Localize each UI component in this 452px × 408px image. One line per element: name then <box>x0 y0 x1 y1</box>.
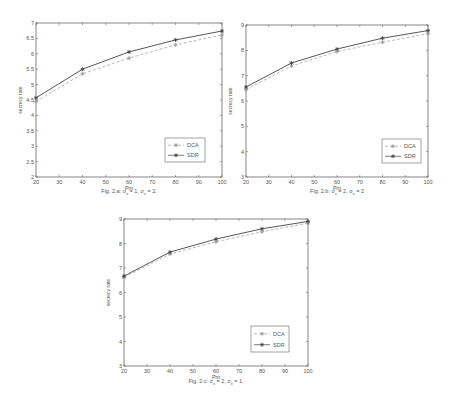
y-tick-label: 5 <box>241 123 244 129</box>
star-marker-icon <box>34 96 38 100</box>
y-tick-label: 6.5 <box>26 35 34 41</box>
y-tick-label: 6 <box>119 290 122 296</box>
legend-marker-icon <box>391 144 395 148</box>
x-tick-label: 100 <box>423 179 432 185</box>
y-tick-label: 3.5 <box>26 128 34 134</box>
y-axis-label: secrecy rate <box>17 86 23 113</box>
x-tick-label: 80 <box>259 368 265 374</box>
y-tick-label: 9 <box>241 22 244 28</box>
star-marker-icon <box>81 67 85 71</box>
legend-marker-icon <box>391 154 395 158</box>
figure-caption: Fig. 2.a: σs = 1, σx = 2. <box>101 188 157 196</box>
star-marker-icon <box>168 250 172 254</box>
x-tick-label: 50 <box>311 179 317 185</box>
y-axis-label: secrecy rate <box>227 87 233 114</box>
y-tick-label: 7 <box>119 265 122 271</box>
star-marker-icon <box>34 100 38 104</box>
legend: DCASDR <box>251 326 289 352</box>
series-sdr <box>34 29 224 100</box>
x-tick-label: 30 <box>56 179 62 185</box>
star-marker-icon <box>81 72 85 76</box>
star-marker-icon <box>306 219 310 223</box>
x-tick-label: 100 <box>303 368 312 374</box>
x-tick-label: 70 <box>357 179 363 185</box>
x-tick-label: 90 <box>282 368 288 374</box>
legend-marker-icon <box>174 153 178 157</box>
star-marker-icon <box>426 29 430 33</box>
y-tick-label: 5 <box>31 82 34 88</box>
y-tick-label: 4.5 <box>26 97 34 103</box>
x-tick-label: 90 <box>196 179 202 185</box>
star-marker-icon <box>174 38 178 42</box>
x-tick-label: 90 <box>402 179 408 185</box>
chart-b: 20304050607080901003456789Pmsecrecy rate… <box>227 22 433 196</box>
legend-marker-icon <box>260 343 264 347</box>
legend-label: SDR <box>273 342 285 348</box>
legend: DCASDR <box>382 139 421 163</box>
y-tick-label: 2 <box>31 174 34 180</box>
star-marker-icon <box>244 85 248 89</box>
star-marker-icon <box>220 33 224 37</box>
y-tick-label: 8 <box>241 47 244 53</box>
x-tick-label: 80 <box>172 179 178 185</box>
y-tick-label: 6 <box>31 51 34 57</box>
star-marker-icon <box>335 47 339 51</box>
y-tick-label: 7 <box>31 20 34 26</box>
y-tick-label: 4 <box>31 112 34 118</box>
legend-label: DCA <box>273 331 285 337</box>
chart-a: 203040506070809010022.533.544.555.566.57… <box>17 20 227 196</box>
legend-label: DCA <box>187 142 199 148</box>
x-tick-label: 80 <box>379 179 385 185</box>
y-tick-label: 3 <box>241 174 244 180</box>
y-tick-label: 8 <box>119 241 122 247</box>
y-axis-label: secrecy rate <box>105 279 111 306</box>
y-tick-label: 3 <box>119 363 122 369</box>
star-marker-icon <box>220 29 224 33</box>
y-tick-label: 5.5 <box>26 66 34 72</box>
series-dca <box>122 221 310 279</box>
y-tick-label: 3 <box>31 143 34 149</box>
star-marker-icon <box>290 61 294 65</box>
x-tick-label: 100 <box>217 179 226 185</box>
star-marker-icon <box>122 274 126 278</box>
star-marker-icon <box>381 36 385 40</box>
legend-label: SDR <box>404 153 416 159</box>
x-tick-label: 70 <box>236 368 242 374</box>
x-tick-label: 70 <box>149 179 155 185</box>
y-tick-label: 6 <box>241 98 244 104</box>
x-tick-label: 30 <box>144 368 150 374</box>
x-tick-label: 50 <box>103 179 109 185</box>
star-marker-icon <box>127 56 131 60</box>
figure-canvas: 203040506070809010022.533.544.555.566.57… <box>0 0 452 408</box>
star-marker-icon <box>260 227 264 231</box>
series-dca <box>34 33 224 104</box>
x-tick-label: 40 <box>79 179 85 185</box>
y-tick-label: 7 <box>241 73 244 79</box>
series-dca <box>244 32 430 92</box>
legend-label: DCA <box>404 143 416 149</box>
y-tick-label: 9 <box>119 216 122 222</box>
x-tick-label: 40 <box>288 179 294 185</box>
legend-marker-icon <box>260 332 264 336</box>
y-tick-label: 4 <box>241 149 244 155</box>
star-marker-icon <box>381 40 385 44</box>
star-marker-icon <box>214 237 218 241</box>
figure-caption: Fig. 2.c: σs = 2, σx = 1. <box>188 378 244 386</box>
y-tick-label: 2.5 <box>26 159 34 165</box>
series-sdr <box>244 29 430 89</box>
legend-marker-icon <box>174 143 178 147</box>
legend-label: SDR <box>187 152 199 158</box>
legend: DCASDR <box>165 138 205 162</box>
x-tick-label: 30 <box>266 179 272 185</box>
chart-c: 20304050607080901003456789Pmsecrecy rate… <box>105 216 313 386</box>
star-marker-icon <box>127 50 131 54</box>
figure-caption: Fig. 2.b: σs = 2, σx = 2 <box>310 188 364 196</box>
x-tick-label: 40 <box>167 368 173 374</box>
y-tick-label: 5 <box>119 314 122 320</box>
x-tick-label: 50 <box>190 368 196 374</box>
y-tick-label: 4 <box>119 339 122 345</box>
star-marker-icon <box>174 43 178 47</box>
